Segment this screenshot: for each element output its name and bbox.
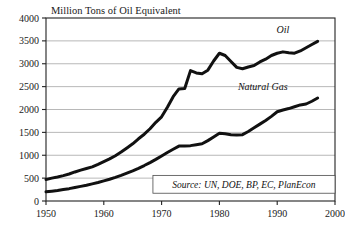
x-axis-label: 1950 <box>36 208 56 219</box>
y-axis-label: 3500 <box>19 35 39 46</box>
x-axis-label: 1960 <box>94 208 114 219</box>
y-axis-label: 500 <box>24 173 39 184</box>
line-chart: Million Tons of Oil Equivalent0500100015… <box>0 0 345 231</box>
source-note-text: Source: UN, DOE, BP, EC, PlanEcon <box>172 180 316 190</box>
series-label-natural-gas: Natural Gas <box>237 81 288 92</box>
x-axis-label: 1980 <box>209 208 229 219</box>
x-axis-label: 1970 <box>152 208 172 219</box>
chart-title: Million Tons of Oil Equivalent <box>51 5 181 16</box>
series-label-oil: Oil <box>277 24 290 35</box>
y-axis-label: 1000 <box>19 150 39 161</box>
x-axis-label: 2000 <box>325 208 345 219</box>
y-axis-label: 3000 <box>19 58 39 69</box>
y-axis-label: 2000 <box>19 104 39 115</box>
y-axis-label: 4000 <box>19 13 39 24</box>
chart-container: Million Tons of Oil Equivalent0500100015… <box>0 0 345 231</box>
y-axis-label: 2500 <box>19 81 39 92</box>
y-axis-label: 1500 <box>19 127 39 138</box>
y-axis-label: 0 <box>34 196 39 207</box>
x-axis-label: 1990 <box>267 208 287 219</box>
